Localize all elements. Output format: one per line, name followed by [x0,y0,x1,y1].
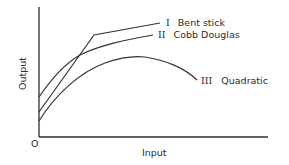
cobb-douglas-numeral: II [158,29,166,40]
bent-stick-text: Bent stick [178,17,226,28]
quadratic-curve [39,57,197,121]
quadratic-label: III Quadratic [201,75,268,86]
quadratic-numeral: III [201,75,213,86]
cobb-douglas-text: Cobb Douglas [174,29,240,40]
bent-stick-numeral: I [166,17,170,28]
production-function-diagram: I Bent stick II Cobb Douglas III Quadrat… [0,0,289,165]
bent-stick-label: I Bent stick [166,17,225,28]
bent-stick-curve [39,23,160,112]
cobb-douglas-label: II Cobb Douglas [158,29,240,40]
x-axis-label: Input [142,147,167,158]
y-axis-label: Output [17,57,28,90]
quadratic-text: Quadratic [221,75,268,86]
origin-label: O [31,138,38,149]
